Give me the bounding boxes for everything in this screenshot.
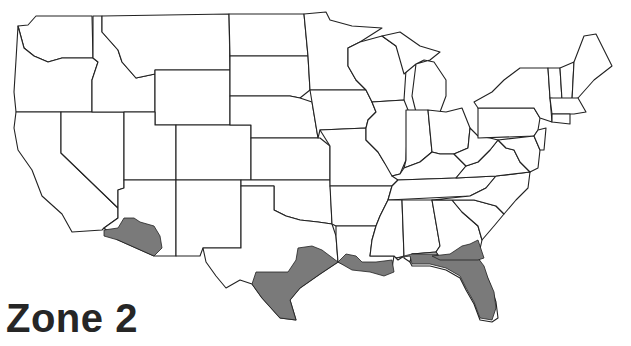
us-map <box>0 0 631 346</box>
zone-title: Zone 2 <box>6 298 138 338</box>
